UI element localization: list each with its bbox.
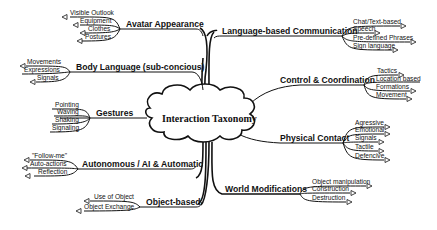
leaf-label: Sign language <box>353 42 395 50</box>
leaf-label: Waving <box>57 108 79 116</box>
leaf-label: Postures <box>85 33 112 40</box>
expand-arrow-icon[interactable] <box>379 140 384 145</box>
leaf-label: Construction <box>312 185 349 192</box>
collapse-arrow-icon[interactable] <box>22 166 27 171</box>
leaf-label: Movement <box>376 91 407 98</box>
branch-physical-contact[interactable]: Physical Contact Agressive Emotional Sig… <box>280 119 390 163</box>
leaf-label: Clothes <box>88 25 111 32</box>
branch-label: Gestures <box>96 108 133 118</box>
branch-label: Object-based <box>146 197 200 207</box>
branch-language-communication[interactable]: Language-based Communication Chat/Text-b… <box>214 18 416 53</box>
leaf-label: Tactile <box>355 143 374 150</box>
expand-arrow-icon[interactable] <box>411 40 416 45</box>
branch-world-modifications[interactable]: World Modifications Object manipulation … <box>225 178 372 205</box>
leaf-label: Expressions <box>24 66 61 74</box>
expand-arrow-icon[interactable] <box>407 97 412 102</box>
expand-arrow-icon[interactable] <box>401 24 406 29</box>
leaf-label: Signals <box>355 134 377 142</box>
leaf-label: Shaking <box>55 116 79 124</box>
leaf-label: Use of Object <box>94 193 134 201</box>
collapse-arrow-icon[interactable] <box>30 80 35 85</box>
leaf-label: Emotional <box>355 126 385 133</box>
leaf-label: Speech <box>353 25 376 33</box>
branch-object-based[interactable]: Object-based Use of Object Object Exchan… <box>76 193 202 214</box>
expand-arrow-icon[interactable] <box>385 158 390 163</box>
collapse-arrow-icon[interactable] <box>80 31 85 36</box>
leaf-label: Object Exchange <box>84 203 135 211</box>
branch-gestures[interactable]: Gestures Pointing Waving Shaking Signali… <box>50 101 133 132</box>
branch-label: Language-based Communication <box>222 26 358 36</box>
branch-control-coordination[interactable]: Control & Coordination Tactics Location … <box>280 67 421 102</box>
branch-label: Autonomous / AI & Automatic <box>82 159 203 169</box>
expand-arrow-icon[interactable] <box>393 48 398 53</box>
collapse-arrow-icon[interactable] <box>20 64 25 69</box>
collapse-arrow-icon[interactable] <box>77 39 82 44</box>
expand-arrow-icon[interactable] <box>385 132 390 137</box>
center-label: Interaction Taxonomy <box>162 113 257 124</box>
branch-autonomous[interactable]: Autonomous / AI & Automatic "Follow-me" … <box>22 152 203 179</box>
expand-arrow-icon[interactable] <box>385 125 390 130</box>
leaf-label: Destruction <box>312 194 346 201</box>
leaf-label: Visible Outlook <box>70 9 115 16</box>
leaf-label: Chat/Text-based <box>353 18 401 25</box>
center-node[interactable]: Interaction Taxonomy <box>146 84 257 142</box>
expand-arrow-icon[interactable] <box>347 200 352 205</box>
expand-arrow-icon[interactable] <box>351 191 356 196</box>
collapse-arrow-icon[interactable] <box>73 23 78 28</box>
expand-arrow-icon[interactable] <box>411 89 416 94</box>
leaf-label: Auto-actions <box>30 160 67 167</box>
collapse-arrow-icon[interactable] <box>76 209 81 214</box>
leaf-label: "Follow-me" <box>32 152 68 159</box>
leaf-label: Signals <box>37 74 59 82</box>
leaf-label: Reflection <box>38 168 68 175</box>
leaf-label: Tactics <box>377 67 398 74</box>
branch-label: Physical Contact <box>280 133 349 143</box>
leaf-label: Movements <box>27 58 62 65</box>
branch-label: Avatar Appearance <box>126 19 204 29</box>
leaf-label: Location based <box>376 75 421 82</box>
branch-label: Body Language (sub-concious) <box>76 62 205 72</box>
branch-avatar-appearance[interactable]: Avatar Appearance Visible Outlook Equipm… <box>62 9 204 44</box>
leaf-label: Signaling <box>52 124 79 132</box>
leaf-label: Formations <box>376 83 410 90</box>
collapse-arrow-icon[interactable] <box>24 158 29 163</box>
leaf-label: Equipment <box>80 17 112 25</box>
leaf-label: Pre-defined Phrases <box>353 34 414 41</box>
branch-label: Control & Coordination <box>280 75 375 85</box>
mind-map: Interaction Taxonomy Avatar Appearance V… <box>0 0 437 230</box>
collapse-arrow-icon[interactable] <box>25 174 30 179</box>
collapse-arrow-icon[interactable] <box>62 15 67 20</box>
branch-label: World Modifications <box>225 184 307 194</box>
